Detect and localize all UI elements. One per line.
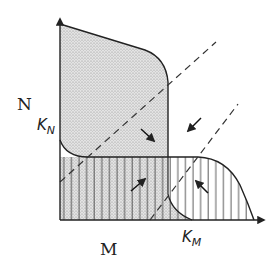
k-m-label: KM	[182, 228, 202, 249]
k-n-label: KN	[37, 116, 55, 137]
x-axis-label: M	[100, 239, 117, 259]
phase-diagram: N M KN KM	[0, 0, 275, 266]
k-n-sub: N	[47, 124, 55, 137]
k-m-sub: M	[192, 236, 202, 249]
n-region-stippled	[60, 24, 168, 157]
arrow-down-left-icon	[188, 118, 201, 131]
y-axis-label: N	[17, 94, 32, 114]
